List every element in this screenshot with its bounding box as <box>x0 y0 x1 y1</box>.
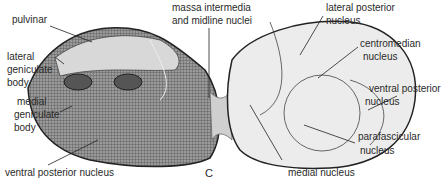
label-medial-geniculate-1: medial <box>17 96 46 108</box>
label-ventral-posterior-left: ventral posterior nucleus <box>5 167 114 179</box>
label-medial-geniculate-2: geniculate <box>14 109 60 121</box>
label-massa-intermedia-2: and midline nuclei <box>172 15 252 27</box>
label-centromedian-1: centromedian <box>360 38 421 50</box>
label-ventral-posterior-right-2: nucleus <box>365 96 399 108</box>
label-lateral-geniculate-3: body <box>7 77 29 89</box>
label-lateral-geniculate-1: lateral <box>7 51 34 63</box>
label-lateral-geniculate-2: geniculate <box>7 64 53 76</box>
label-parafascicular-1: parafascicular <box>358 131 420 143</box>
label-medial-nucleus: medial nucleus <box>288 167 355 179</box>
label-pulvinar: pulvinar <box>12 14 47 26</box>
label-centromedian-2: nucleus <box>363 51 397 63</box>
label-lateral-posterior-2: nucleus <box>326 15 360 27</box>
label-ventral-posterior-right-1: ventral posterior <box>369 83 441 95</box>
left-thalamus <box>28 28 220 167</box>
label-lateral-posterior-1: lateral posterior <box>326 2 395 14</box>
label-parafascicular-2: nucleus <box>360 145 394 157</box>
label-massa-intermedia-1: massa intermedia <box>172 2 251 14</box>
panel-letter: C <box>205 167 213 179</box>
label-medial-geniculate-3: body <box>14 122 36 134</box>
